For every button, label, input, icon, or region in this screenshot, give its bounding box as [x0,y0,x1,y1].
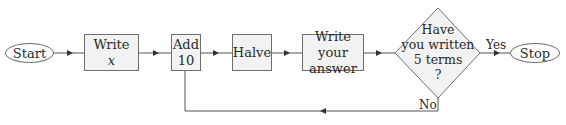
write-answer-node: Write your answer [302,34,364,71]
write-answer-line2: answer [309,61,357,77]
write-x-line2: x [108,53,115,69]
arrowhead-icon [284,50,290,56]
write-x-node: Write x [84,34,139,71]
start-node: Start [5,43,54,63]
arrowhead-icon [213,50,219,56]
arrowhead-icon [376,50,382,56]
write-answer-line1: Write your [303,29,363,61]
arrowhead-icon [67,50,73,56]
add-10-line1: Add [173,37,199,53]
add-10-line2: 10 [178,53,195,69]
halve-node: Halve [232,34,272,71]
decision-line2: you written [395,37,481,52]
yes-label: Yes [486,38,506,52]
add-10-node: Add 10 [171,34,201,71]
halve-label: Halve [233,45,271,61]
stop-node: Stop [510,43,560,63]
decision-node: Have you written 5 terms ? [395,22,481,82]
decision-line1: Have [395,22,481,37]
arrowhead-icon [320,108,326,114]
stop-label: Stop [520,46,550,61]
arrowhead-icon [153,50,159,56]
decision-line4: ? [395,67,481,82]
no-label: No [419,98,437,112]
decision-line3: 5 terms [395,52,481,67]
start-label: Start [13,46,46,61]
write-x-line1: Write [93,37,129,53]
